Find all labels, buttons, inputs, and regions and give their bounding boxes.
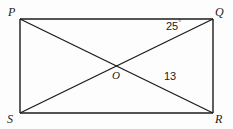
degree-symbol: ° [178, 19, 181, 26]
angle-value: 25 [166, 20, 178, 32]
figure-canvas [0, 0, 233, 129]
vertex-label-r: R [215, 113, 222, 125]
geometry-figure: P Q S R O 25° 13 [0, 0, 233, 129]
vertex-label-o: O [112, 70, 120, 81]
vertex-label-q: Q [215, 6, 224, 18]
segment-length-label: 13 [164, 71, 176, 82]
vertex-label-s: S [7, 113, 13, 125]
angle-measure-label: 25° [166, 19, 181, 32]
vertex-label-p: P [8, 6, 15, 18]
